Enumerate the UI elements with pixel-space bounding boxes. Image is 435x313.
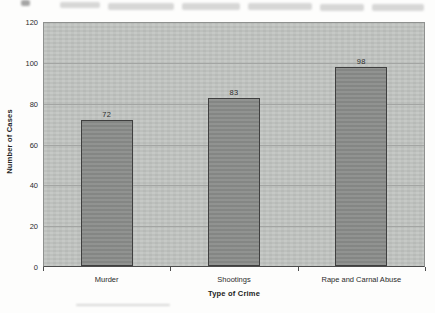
x-axis-title: Type of Crime [43, 289, 425, 298]
scan-artifact-text [372, 4, 424, 11]
bar-shootings [208, 98, 260, 266]
scan-artifact-text [108, 3, 174, 10]
bar-value-label: 98 [335, 57, 387, 66]
scan-artifact-text [60, 2, 100, 8]
x-axis-tick [425, 267, 426, 271]
scan-artifact-line [76, 304, 170, 306]
bar-rape-and-carnal-abuse [335, 67, 387, 266]
scan-artifact-glyph [21, 0, 30, 6]
x-category-label: Murder [43, 275, 170, 284]
x-axis-tick [170, 267, 171, 271]
y-tick-label: 0 [2, 263, 38, 272]
bar-value-label: 72 [81, 110, 133, 119]
x-axis-tick [43, 267, 44, 271]
bar-value-label: 83 [208, 88, 260, 97]
bar-murder [81, 120, 133, 266]
x-axis-tick [298, 267, 299, 271]
scanned-chart-page: 020406080100120 Number of Cases Type of … [0, 0, 435, 313]
y-tick-label: 100 [2, 59, 38, 68]
scan-artifact-text [182, 3, 240, 10]
scan-artifact-text [320, 4, 364, 11]
scan-artifact-text [248, 3, 312, 10]
y-tick-label: 20 [2, 222, 38, 231]
x-category-label: Rape and Carnal Abuse [298, 275, 425, 284]
x-category-label: Shootings [170, 275, 297, 284]
y-axis-title: Number of Cases [5, 77, 14, 207]
y-tick-label: 120 [2, 18, 38, 27]
